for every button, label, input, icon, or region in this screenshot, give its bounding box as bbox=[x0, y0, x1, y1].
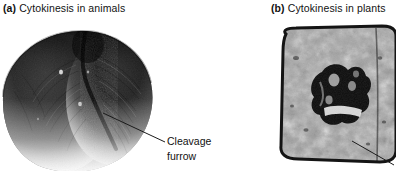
cleavage-furrow-leader-line bbox=[95, 105, 175, 150]
panel-b-tag: (b) bbox=[271, 2, 285, 14]
panel-a-caption: Cytokinesis in animals bbox=[19, 2, 125, 14]
cleavage-furrow-label-line1: Cleavage bbox=[167, 134, 211, 149]
panel-a-tag: (a) bbox=[3, 2, 16, 14]
panel-b-label: (b) Cytokinesis in plants bbox=[271, 2, 386, 14]
panel-b-caption: Cytokinesis in plants bbox=[288, 2, 386, 14]
plant-cell-leader-line bbox=[352, 138, 396, 171]
figure-root: (a) Cytokinesis in animals bbox=[0, 0, 396, 171]
cleavage-furrow-label-line2: furrow bbox=[167, 149, 211, 164]
panel-a-label: (a) Cytokinesis in animals bbox=[3, 2, 125, 14]
cleavage-furrow-label: Cleavage furrow bbox=[167, 134, 211, 164]
